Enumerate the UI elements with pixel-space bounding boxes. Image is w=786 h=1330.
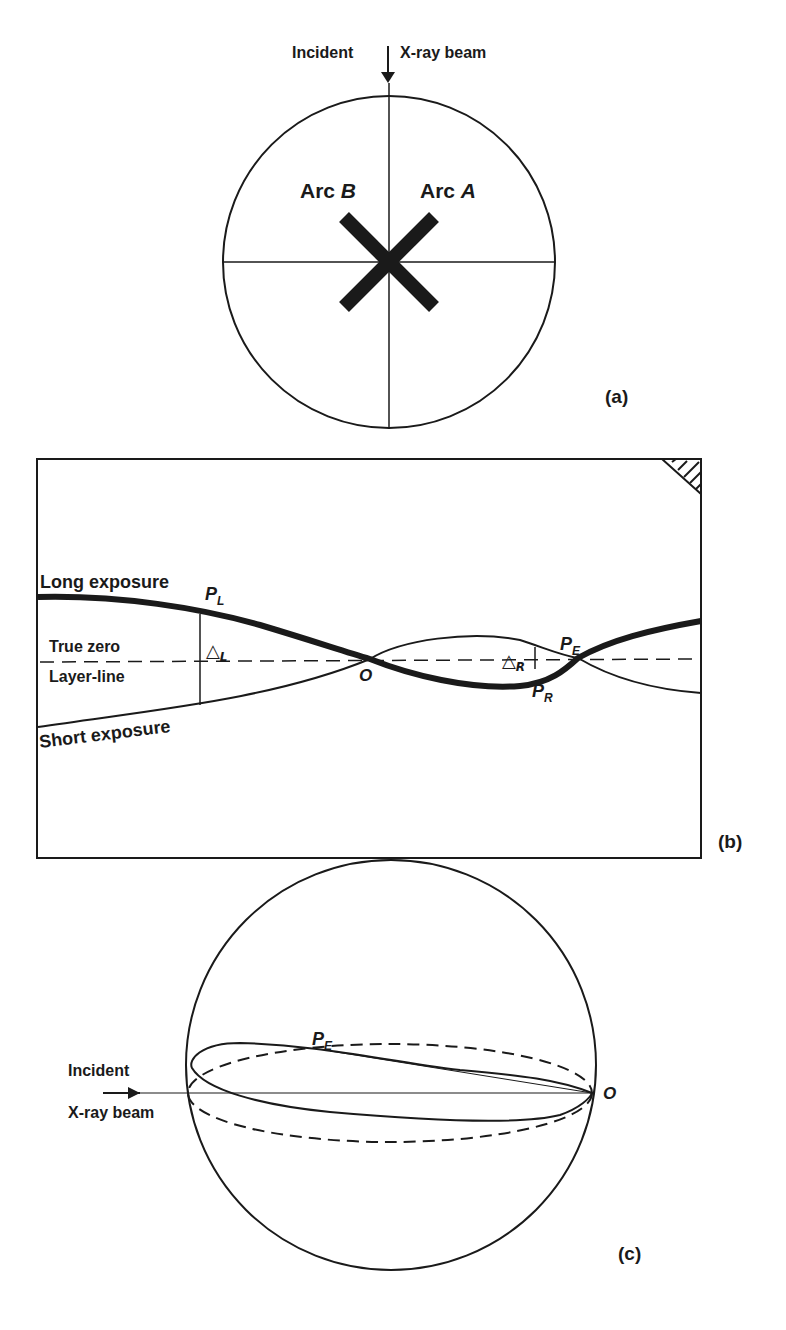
panel-b-label: (b) <box>718 831 742 852</box>
delta-l-label: △L <box>206 640 228 664</box>
delta-r-label: △R <box>502 650 525 674</box>
incident-label: Incident <box>292 44 354 61</box>
short-exposure-label: Short exposure <box>38 716 171 752</box>
beam-arrow-head-icon <box>381 72 395 83</box>
origin-o-label: O <box>359 666 372 685</box>
panel-a-label: (a) <box>605 386 628 407</box>
p-l-label: PL <box>205 584 224 608</box>
long-exposure-label: Long exposure <box>40 572 169 592</box>
origin-o-label: O <box>603 1084 616 1103</box>
panel-c-label: (c) <box>618 1243 641 1264</box>
arc-b-label: Arc B <box>300 179 356 202</box>
panel-c: Incident X-ray beam PE O (c) <box>68 860 641 1270</box>
panel-a: Incident X-ray beam Arc B Arc A (a) <box>223 44 628 428</box>
layer-line-label: Layer-line <box>49 668 125 685</box>
true-zero-label: True zero <box>49 638 120 655</box>
xray-beam-label: X-ray beam <box>68 1104 154 1121</box>
xray-beam-label: X-ray beam <box>400 44 486 61</box>
incident-beam-arrow-head-icon <box>128 1087 140 1099</box>
tilted-circle-solid <box>191 1043 592 1121</box>
reflection-sphere <box>186 860 596 1270</box>
p-e-chord <box>330 1051 592 1093</box>
panel-b: Long exposure PL True zero Layer-line △L… <box>37 459 742 858</box>
figure: Incident X-ray beam Arc B Arc A (a) <box>0 0 786 1330</box>
incident-label: Incident <box>68 1062 130 1079</box>
p-r-label: PR <box>532 681 553 705</box>
arc-a-label: Arc A <box>420 179 476 202</box>
hatched-corner-icon <box>662 459 701 494</box>
